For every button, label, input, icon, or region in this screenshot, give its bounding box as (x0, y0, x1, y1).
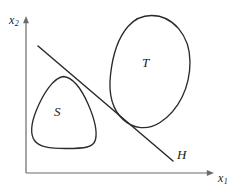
x-axis-label-base: x (218, 171, 223, 185)
x-axis-label-subscript: 1 (224, 177, 228, 186)
x-axis-arrowhead (207, 170, 214, 176)
y-axis-label-subscript: 2 (15, 19, 19, 28)
y-axis-label: x2 (9, 14, 19, 28)
set-label-S: S (54, 105, 61, 118)
set-outline-T (110, 16, 190, 128)
x-axis (26, 170, 214, 176)
y-axis (23, 16, 29, 173)
x-axis-label: x1 (218, 172, 228, 186)
hyperplane-label-H: H (177, 148, 186, 161)
y-axis-arrowhead (23, 16, 29, 23)
set-label-T: T (142, 56, 149, 69)
figure-container: x2 x1 S T H (0, 0, 240, 196)
diagram-canvas (0, 0, 240, 196)
y-axis-label-base: x (9, 13, 14, 27)
